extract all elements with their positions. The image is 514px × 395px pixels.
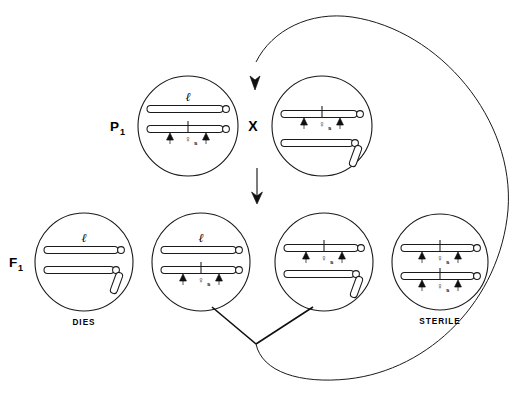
translocated-fragment — [349, 275, 363, 298]
centromere-knob — [236, 247, 243, 254]
chromosome-arm — [147, 106, 223, 113]
breakpoint-arrow-left — [301, 118, 308, 129]
gene-label-q: ♀ — [321, 253, 327, 263]
chromosome-arm — [44, 267, 114, 274]
gene-label-q: ♀ — [437, 281, 443, 291]
chromosome-arm — [44, 247, 118, 254]
cell-f1-4[interactable]: ♀ s ♀ s STERILE — [392, 214, 488, 326]
breakpoint-arrow-right — [455, 280, 462, 291]
descent-arrow — [252, 168, 263, 204]
chromosome-normal-l: ℓ — [147, 90, 229, 113]
fertile-merge-connector — [212, 307, 313, 344]
breakpoint-arrow-left — [180, 274, 187, 285]
gene-label-q-subscript: s — [328, 124, 332, 131]
chromosome-marked-qs: ♀ s — [284, 240, 364, 265]
gene-label-q: ♀ — [185, 134, 191, 144]
breakpoint-arrow-right — [339, 252, 346, 263]
chromosome-marked-qs-top: ♀ s — [401, 240, 480, 265]
chromosome-normal-l: ℓ — [161, 231, 242, 254]
backcross-loop-arrowhead — [250, 76, 260, 90]
chromosome-translocated — [281, 140, 363, 168]
cell-f1-3[interactable]: ♀ s — [275, 213, 373, 311]
cell-p1-right[interactable]: ♀ s — [272, 76, 372, 176]
chromosome-marked-qs: ♀ s — [147, 121, 229, 146]
centromere-knob — [357, 111, 364, 118]
gene-label-q: ♀ — [198, 275, 204, 285]
chromosome-arm — [281, 140, 353, 147]
generation-label-p1-subscript: 1 — [120, 127, 125, 137]
merge-line-from-cell-2 — [212, 307, 256, 344]
gene-label-q-subscript: s — [194, 139, 198, 146]
cell-f1-1[interactable]: ℓ DIES — [35, 213, 133, 327]
chromosome-arm — [147, 126, 223, 133]
breakpoint-arrow-right — [337, 118, 344, 129]
cell-p1-left[interactable]: ℓ ♀ s — [138, 76, 238, 176]
breakpoint-arrow-right — [455, 252, 462, 263]
chromosome-arm — [284, 245, 358, 252]
centromere-knob — [236, 267, 243, 274]
fate-label-sterile: STERILE — [419, 317, 461, 326]
chromosome-marked-qs-bottom: ♀ s — [401, 268, 480, 293]
chromosome-translocated — [44, 267, 124, 295]
merge-line-from-cell-3 — [256, 307, 313, 344]
chromosome-normal-l: ℓ — [44, 231, 124, 254]
fate-label-dies: DIES — [72, 318, 95, 327]
gene-label-q: ♀ — [437, 253, 443, 263]
centromere-knob — [358, 245, 365, 252]
gene-label-q-subscript: s — [330, 258, 334, 265]
chromosome-marked-qs: ♀ s — [281, 106, 363, 131]
generation-label-f1: F 1 — [9, 255, 23, 273]
cell-f1-2[interactable]: ℓ ♀ s — [152, 213, 250, 311]
generation-label-p1-text: P — [110, 119, 119, 134]
gene-label-q-subscript: s — [446, 286, 450, 293]
breakpoint-arrow-right — [203, 133, 210, 144]
chromosome-translocated — [284, 271, 364, 299]
chromosome-arm — [401, 245, 474, 252]
cross-symbol: X — [248, 118, 258, 134]
chromosome-arm — [281, 111, 357, 118]
gene-label-l: ℓ — [186, 90, 191, 104]
generation-label-f1-subscript: 1 — [18, 263, 23, 273]
centromere-knob — [118, 247, 125, 254]
gene-label-q-subscript: s — [446, 258, 450, 265]
breakpoint-arrow-left — [419, 252, 426, 263]
figure-canvas: P 1 ℓ ♀ s X ♀ s — [0, 0, 514, 395]
chromosome-arm — [161, 267, 236, 274]
chromosome-arm — [284, 271, 354, 278]
generation-label-f1-text: F — [9, 255, 17, 270]
backcross-loop-curve — [256, 16, 508, 380]
breakpoint-arrow-left — [303, 252, 310, 263]
chromosome-arm — [401, 273, 474, 280]
centromere-knob — [223, 106, 230, 113]
translocated-fragment — [109, 271, 123, 294]
chromosome-arm — [161, 247, 236, 254]
gene-label-q: ♀ — [319, 119, 325, 129]
centromere-knob — [223, 126, 230, 133]
centromere-knob — [474, 273, 481, 280]
backcross-loop-path — [250, 16, 508, 380]
genetic-cross-diagram: P 1 ℓ ♀ s X ♀ s — [0, 0, 514, 395]
cell-membrane — [35, 213, 133, 311]
breakpoint-arrow-left — [167, 133, 174, 144]
gene-label-l: ℓ — [82, 231, 87, 245]
centromere-knob — [474, 245, 481, 252]
generation-label-p1: P 1 — [110, 119, 125, 137]
chromosome-marked-qs: ♀ s — [161, 262, 242, 287]
gene-label-q-subscript: s — [207, 280, 211, 287]
breakpoint-arrow-right — [216, 274, 223, 285]
translocated-fragment — [348, 144, 362, 167]
breakpoint-arrow-left — [419, 280, 426, 291]
gene-label-l: ℓ — [199, 231, 204, 245]
